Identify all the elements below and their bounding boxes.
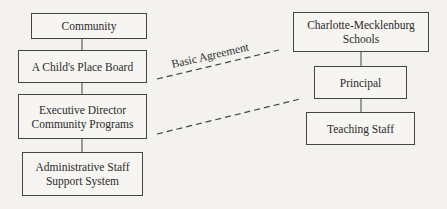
box-label: Schools xyxy=(343,32,379,46)
box-executive-director: Executive Director Community Programs xyxy=(18,94,147,139)
box-label: Administrative Staff xyxy=(35,160,129,174)
box-label: Principal xyxy=(340,76,382,90)
box-label: Community Programs xyxy=(32,117,134,131)
box-label: Teaching Staff xyxy=(327,122,394,136)
box-label: Support System xyxy=(46,174,119,188)
box-label: A Child's Place Board xyxy=(32,60,133,74)
box-label: Executive Director xyxy=(39,103,126,117)
box-community: Community xyxy=(31,13,147,39)
box-charlotte-mecklenburg-schools: Charlotte-Mecklenburg Schools xyxy=(293,12,429,52)
dashed-link-exec-principal xyxy=(157,99,300,134)
box-principal: Principal xyxy=(314,66,407,99)
box-administrative-staff: Administrative Staff Support System xyxy=(22,152,143,196)
box-childs-place-board: A Child's Place Board xyxy=(18,50,147,83)
box-label: Charlotte-Mecklenburg xyxy=(307,18,415,32)
box-label: Community xyxy=(62,19,117,33)
box-teaching-staff: Teaching Staff xyxy=(306,112,415,145)
